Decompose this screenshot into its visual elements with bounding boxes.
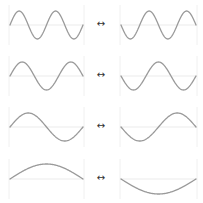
sine-wave [10, 164, 83, 179]
double-arrow-icon: ↔ [91, 173, 111, 183]
wave-panel-left-3 [9, 107, 84, 147]
double-arrow-icon: ↔ [91, 70, 111, 80]
sine-wave [121, 179, 196, 194]
wave-panel-right-1 [120, 5, 197, 45]
double-arrow-icon: ↔ [91, 19, 111, 29]
double-arrow-icon: ↔ [91, 121, 111, 131]
wave-panel-right-4 [120, 159, 197, 199]
wave-panel-right-3 [120, 107, 197, 147]
wave-panel-left-2 [9, 56, 84, 96]
wave-panel-right-2 [120, 56, 197, 96]
wave-panel-left-4 [9, 159, 84, 199]
wave-panel-left-1 [9, 5, 84, 45]
